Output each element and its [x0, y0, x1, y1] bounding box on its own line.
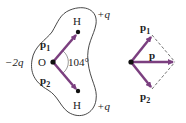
oxygen-charge: −2q: [5, 56, 24, 68]
sum-vector-2: [131, 62, 151, 87]
oxygen-label: O: [38, 56, 46, 68]
hydrogen-bottom-label: H: [73, 99, 81, 111]
parallelogram-edge-bottom: [152, 62, 175, 89]
origin-dot: [128, 59, 133, 64]
oxygen-dot: [50, 59, 55, 64]
hydrogen-top-dot: [76, 30, 80, 34]
resultant-label: p: [149, 49, 155, 61]
hydrogen-bottom-dot: [76, 89, 80, 93]
sum-vector-1: [131, 37, 151, 62]
angle-label: 104°: [68, 56, 89, 68]
hydrogen-top-charge: +q: [97, 8, 110, 20]
sum-dipole-1-label: p1: [140, 21, 150, 36]
dipole-2-label: p2: [40, 74, 50, 89]
dipole-1-label: p1: [40, 38, 50, 53]
hydrogen-top-label: H: [73, 15, 81, 27]
hydrogen-bottom-charge: +q: [97, 100, 110, 112]
sum-dipole-2-label: p2: [140, 90, 150, 105]
parallelogram-edge-top: [152, 35, 175, 62]
dipole-diagram: −2q O H +q H +q 104° p1 p2 p1 p p2: [0, 0, 186, 123]
